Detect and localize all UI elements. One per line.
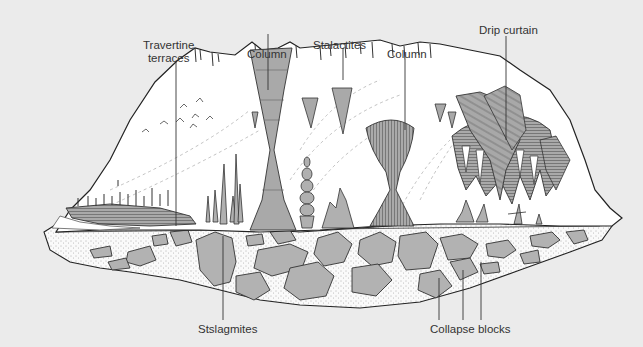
label-travertine-line2: terraces <box>143 52 194 65</box>
label-column-left: Column <box>247 48 287 61</box>
label-stalagmites: Stslagmites <box>198 323 257 336</box>
cave-diagram: Travertine terraces Column Stalactites C… <box>0 0 643 347</box>
label-collapse-blocks: Collapse blocks <box>430 323 511 336</box>
label-travertine-line1: Travertine <box>143 39 194 52</box>
label-stalactites: Stalactites <box>313 39 366 52</box>
label-drip-curtain: Drip curtain <box>479 24 538 37</box>
label-travertine-terraces: Travertine terraces <box>143 39 194 65</box>
rubble-floor <box>44 218 612 308</box>
label-column-right: Column <box>387 48 427 61</box>
cave-cross-section-illustration <box>0 0 643 347</box>
